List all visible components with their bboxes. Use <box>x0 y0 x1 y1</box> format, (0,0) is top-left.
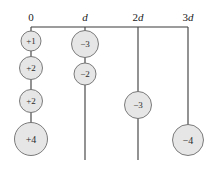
axis-tick-label-d: d <box>82 11 88 23</box>
drop-line-group <box>31 27 188 160</box>
charge-value-label: +4 <box>26 134 37 145</box>
tick-label-group: 0d2d3d <box>28 11 194 23</box>
charge-node: +2 <box>20 57 43 80</box>
charge-node: +1 <box>21 31 41 51</box>
charge-node: −4 <box>173 125 204 156</box>
charge-value-label: +1 <box>26 36 36 46</box>
axis-tick-label-2d: 2d <box>133 11 145 23</box>
charge-node: −3 <box>72 31 99 58</box>
charge-value-label: −3 <box>80 39 90 49</box>
figure-canvas: 0d2d3d +1+2+2+4−3−2−3−4 <box>0 0 217 171</box>
charge-node: −3 <box>125 92 152 119</box>
axis-tick-label-3d: 3d <box>183 11 195 23</box>
axis-tick-label-0: 0 <box>28 11 34 23</box>
charge-node: +4 <box>15 123 48 156</box>
charge-group: +1+2+2+4−3−2−3−4 <box>15 31 204 156</box>
charge-node: +2 <box>20 90 43 113</box>
charge-value-label: −3 <box>133 100 143 110</box>
charge-value-label: −2 <box>80 69 90 79</box>
charge-value-label: +2 <box>26 96 36 106</box>
charge-node: −2 <box>74 63 96 85</box>
charge-value-label: −4 <box>183 135 194 146</box>
charge-value-label: +2 <box>26 63 36 73</box>
charge-ladder-figure: 0d2d3d +1+2+2+4−3−2−3−4 <box>0 0 217 171</box>
